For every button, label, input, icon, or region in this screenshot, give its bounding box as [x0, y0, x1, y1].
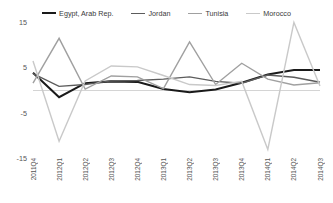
- x-tick-label: 2013Q1: [160, 158, 167, 181]
- legend-label-morocco: Morocco: [263, 9, 291, 18]
- x-tick-label: 2013Q4: [238, 158, 245, 181]
- legend-label-tunisia: Tunisia: [205, 9, 228, 18]
- legend-swatch-egypt: [42, 12, 56, 14]
- x-tick-label: 2014Q3: [317, 158, 324, 181]
- x-tick-label: 2012Q2: [82, 158, 89, 181]
- legend-item-egypt[interactable]: Egypt, Arab Rep.: [42, 9, 113, 18]
- x-axis: 2011Q42012Q12012Q22012Q32012Q42013Q12013…: [33, 158, 320, 203]
- legend-swatch-morocco: [246, 13, 260, 14]
- legend-label-jordan: Jordan: [148, 9, 170, 18]
- x-tick-label: 2012Q3: [108, 158, 115, 181]
- x-tick-label: 2012Q4: [134, 158, 141, 181]
- chart-legend: Egypt, Arab Rep. Jordan Tunisia Morocco: [0, 6, 333, 20]
- legend-item-morocco[interactable]: Morocco: [246, 9, 291, 18]
- y-tick-label: -15: [17, 154, 27, 163]
- legend-item-tunisia[interactable]: Tunisia: [188, 9, 228, 18]
- series-line-tunisia: [33, 38, 320, 89]
- plot-area: [33, 22, 320, 158]
- series-line-egypt-arab-rep: [33, 70, 320, 97]
- series-line-morocco: [33, 22, 320, 149]
- x-tick-label: 2011Q4: [30, 158, 37, 180]
- y-tick-label: -5: [21, 108, 27, 117]
- legend-item-jordan[interactable]: Jordan: [131, 9, 170, 18]
- legend-swatch-jordan: [131, 13, 145, 14]
- quarterly-line-chart: Egypt, Arab Rep. Jordan Tunisia Morocco …: [0, 0, 333, 203]
- y-axis: 155-5-15: [0, 22, 31, 158]
- y-tick-label: 15: [19, 18, 27, 27]
- y-tick-label: 5: [23, 63, 27, 72]
- x-tick-label: 2012Q1: [56, 158, 63, 181]
- series-lines: [33, 22, 320, 158]
- x-tick-label: 2014Q2: [290, 158, 297, 181]
- legend-label-egypt: Egypt, Arab Rep.: [59, 9, 113, 18]
- legend-swatch-tunisia: [188, 13, 202, 14]
- x-tick-label: 2013Q2: [186, 158, 193, 181]
- x-tick-label: 2014Q1: [264, 158, 271, 181]
- x-tick-label: 2013Q3: [212, 158, 219, 181]
